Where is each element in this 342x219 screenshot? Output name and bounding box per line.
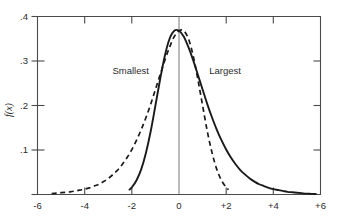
smallest-curve-label: Smallest bbox=[112, 65, 149, 76]
y-tick-label: .2 bbox=[20, 100, 28, 111]
x-tick-label: -2 bbox=[128, 200, 136, 211]
x-tick-label: 0 bbox=[176, 200, 181, 211]
extreme-value-distribution-chart: .4 .3 .2 .1 -6 -4 -2 0 +2 +4 +6 f(x) Sma… bbox=[0, 0, 342, 219]
chart-background bbox=[0, 0, 342, 219]
x-tick-label: +2 bbox=[221, 200, 232, 211]
largest-curve-label: Largest bbox=[209, 65, 241, 76]
y-tick-label: .1 bbox=[20, 144, 28, 155]
x-tick-label: -4 bbox=[80, 200, 88, 211]
x-tick-label: +6 bbox=[315, 200, 326, 211]
x-tick-label: -6 bbox=[33, 200, 41, 211]
y-tick-label: .4 bbox=[20, 11, 28, 22]
y-axis-title: f(x) bbox=[3, 102, 15, 117]
x-tick-label: +4 bbox=[268, 200, 279, 211]
y-tick-label: .3 bbox=[20, 55, 28, 66]
